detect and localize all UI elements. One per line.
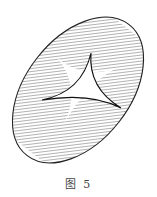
diagram-figure [0,0,157,197]
figure-caption: 图 5 [0,175,157,191]
